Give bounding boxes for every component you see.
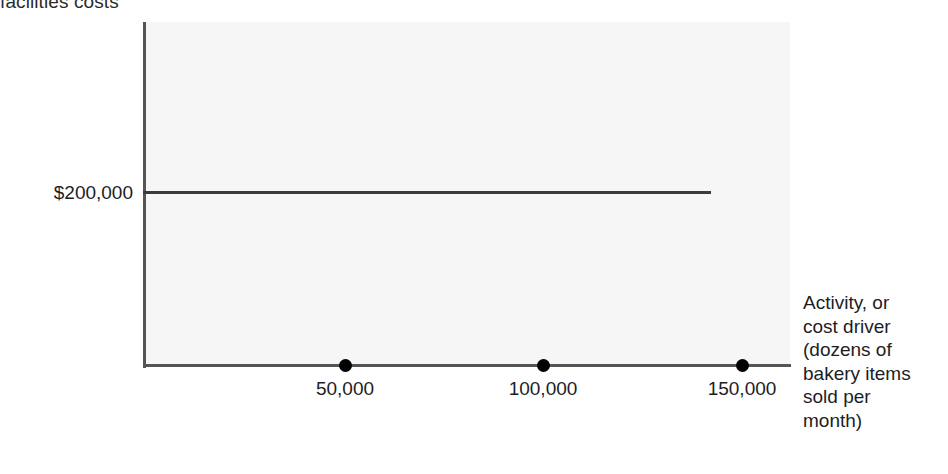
x-axis-title-line: bakery items (803, 362, 943, 386)
x-axis-title-line: Activity, or (803, 291, 943, 315)
x-tick-label: 150,000 (708, 378, 777, 400)
x-axis-title-line: month) (803, 409, 943, 433)
fixed-cost-line (143, 191, 711, 194)
x-axis-title-line: cost driver (803, 315, 943, 339)
x-tick-label: 100,000 (509, 378, 578, 400)
x-axis-line (143, 364, 791, 367)
figure-caption: facilities costs (0, 0, 119, 13)
y-tick-label: $200,000 (54, 183, 133, 202)
data-point-marker (339, 359, 352, 372)
x-tick-label: 50,000 (316, 378, 374, 400)
x-axis-title: Activity, or cost driver (dozens of bake… (803, 291, 943, 432)
plot-area (143, 22, 790, 366)
chart-figure: facilities costs $200,000 50,000 100,000… (0, 0, 948, 474)
x-axis-title-line: (dozens of (803, 338, 943, 362)
data-point-marker (537, 359, 550, 372)
y-tick-group: $200,000 (0, 183, 133, 203)
data-point-marker (736, 359, 749, 372)
x-axis-title-line: sold per (803, 385, 943, 409)
y-axis-line (143, 22, 146, 368)
